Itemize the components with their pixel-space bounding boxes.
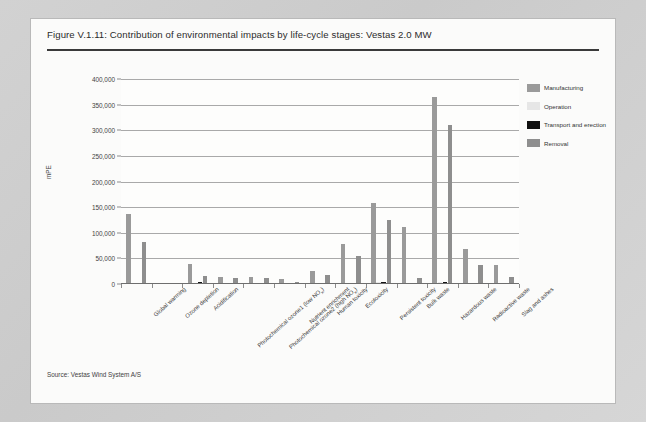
y-tick-label: 50,000 bbox=[57, 255, 115, 262]
bar bbox=[478, 265, 483, 284]
y-tick-label: 0 bbox=[57, 281, 115, 288]
bar bbox=[188, 264, 193, 284]
bar-group bbox=[335, 79, 366, 284]
bar bbox=[142, 242, 147, 284]
chart-legend: ManufacturingOperationTransport and erec… bbox=[527, 83, 632, 157]
legend-label: Manufacturing bbox=[544, 84, 583, 91]
bar bbox=[463, 249, 468, 284]
legend-label: Operation bbox=[544, 103, 571, 110]
bar bbox=[341, 244, 346, 284]
bar-group bbox=[305, 79, 336, 284]
bar bbox=[448, 125, 453, 284]
y-tick-label: 150,000 bbox=[57, 204, 115, 211]
x-tick-label: Ozone depletion bbox=[184, 286, 220, 319]
legend-label: Removal bbox=[544, 140, 568, 147]
chart-container: mPE 050,000100,000150,000200,000250,0003… bbox=[47, 61, 599, 361]
bar-group bbox=[121, 79, 152, 284]
bar bbox=[356, 256, 361, 284]
y-axis-label: mPE bbox=[45, 165, 52, 179]
y-tick-label: 100,000 bbox=[57, 229, 115, 236]
bar-group bbox=[243, 79, 274, 284]
legend-label: Transport and erection bbox=[544, 121, 606, 128]
legend-swatch-icon bbox=[527, 121, 540, 129]
x-tick-label: Photochemical ozone2 (high NOx) bbox=[288, 286, 360, 352]
x-tick-label: Global warming bbox=[153, 286, 187, 318]
legend-item: Operation bbox=[527, 102, 632, 111]
title-divider bbox=[47, 49, 599, 51]
bar bbox=[126, 214, 131, 284]
bar-group bbox=[458, 79, 489, 284]
y-tick-label: 200,000 bbox=[57, 178, 115, 185]
bar-group bbox=[274, 79, 305, 284]
bar-group bbox=[366, 79, 397, 284]
legend-swatch-icon bbox=[527, 102, 540, 110]
x-axis-labels: Global warmingOzone depletionAcidificati… bbox=[121, 284, 519, 362]
bar bbox=[432, 97, 437, 284]
bar bbox=[402, 227, 407, 284]
bar-group bbox=[427, 79, 458, 284]
x-tick-mark bbox=[519, 284, 520, 288]
bar-group bbox=[182, 79, 213, 284]
legend-item: Transport and erection bbox=[527, 120, 632, 129]
legend-swatch-icon bbox=[527, 84, 540, 92]
bar bbox=[371, 203, 376, 284]
bar-group bbox=[488, 79, 519, 284]
figure-title: Figure V.1.11: Contribution of environme… bbox=[47, 29, 599, 40]
bar bbox=[494, 265, 499, 284]
legend-item: Removal bbox=[527, 139, 632, 148]
legend-swatch-icon bbox=[527, 139, 540, 147]
bar-group bbox=[396, 79, 427, 284]
y-tick-label: 350,000 bbox=[57, 101, 115, 108]
legend-item: Manufacturing bbox=[527, 83, 632, 92]
bar bbox=[387, 220, 392, 284]
y-tick-label: 300,000 bbox=[57, 127, 115, 134]
source-note: Source: Vestas Wind System A/S bbox=[47, 371, 141, 378]
y-tick-label: 400,000 bbox=[57, 76, 115, 83]
bar-group bbox=[213, 79, 244, 284]
bar-group bbox=[152, 79, 183, 284]
y-tick-label: 250,000 bbox=[57, 152, 115, 159]
figure-card: Figure V.1.11: Contribution of environme… bbox=[30, 18, 616, 404]
plot-area bbox=[121, 79, 519, 284]
bar-groups bbox=[121, 79, 519, 284]
